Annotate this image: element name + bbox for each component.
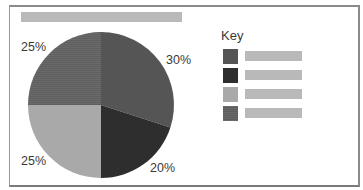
legend-swatch-4 [223, 106, 238, 121]
legend-swatch-3 [223, 87, 238, 102]
slice-label-20: 20% [150, 161, 175, 175]
legend-swatch-1 [223, 49, 238, 64]
legend-swatch-2 [223, 68, 238, 83]
legend-label-placeholder-1 [245, 51, 302, 61]
legend-label-placeholder-3 [245, 89, 302, 99]
legend-title: Key [221, 28, 243, 43]
slice-label-30: 30% [166, 53, 191, 67]
slice-label-25-bottom: 25% [21, 154, 46, 168]
slice-label-25-top: 25% [21, 40, 46, 54]
pie-chart [0, 0, 363, 190]
legend-label-placeholder-2 [245, 70, 302, 80]
legend-label-placeholder-4 [245, 108, 302, 118]
